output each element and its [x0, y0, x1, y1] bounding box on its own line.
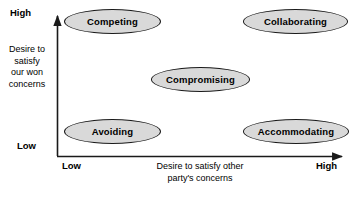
y-axis-title-line-4: concerns — [0, 79, 54, 91]
node-collaborating-label: Collaborating — [264, 17, 327, 27]
y-axis-title-line-1: Desire to — [0, 44, 54, 56]
node-compromising[interactable]: Compromising — [151, 67, 250, 92]
node-avoiding-label: Avoiding — [92, 127, 133, 137]
node-competing-label: Competing — [87, 17, 138, 27]
x-axis-title: Desire to satisfy other party's concerns — [120, 161, 280, 184]
y-axis-tick-high: High — [10, 8, 31, 18]
x-axis-tick-low: Low — [62, 161, 81, 171]
y-axis-title-line-3: our won — [0, 67, 54, 79]
y-axis-tick-low: Low — [17, 141, 36, 151]
y-axis-title: Desire to satisfy our won concerns — [0, 44, 54, 90]
node-accommodating[interactable]: Accommodating — [243, 119, 349, 144]
node-compromising-label: Compromising — [166, 75, 235, 85]
node-accommodating-label: Accommodating — [258, 127, 334, 137]
node-competing[interactable]: Competing — [64, 9, 161, 34]
x-axis-tick-high: High — [316, 161, 337, 171]
x-axis-title-line-2: party's concerns — [120, 173, 280, 185]
x-axis-title-line-1: Desire to satisfy other — [120, 161, 280, 173]
conflict-management-styles-diagram: Desire to satisfy our won concerns Desir… — [0, 0, 353, 197]
node-avoiding[interactable]: Avoiding — [64, 119, 161, 144]
node-collaborating[interactable]: Collaborating — [243, 9, 348, 34]
y-axis-title-line-2: satisfy — [0, 56, 54, 68]
